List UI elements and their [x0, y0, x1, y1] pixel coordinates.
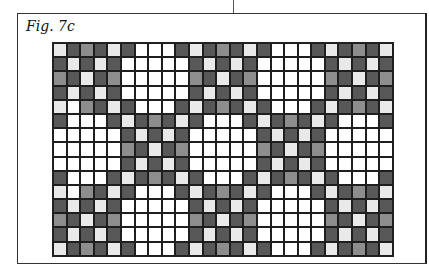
grid-cell-white: [338, 171, 352, 185]
grid-cell-mid-grey: [243, 71, 257, 85]
grid-cell-white: [284, 57, 298, 71]
grid-cell-light-grey: [311, 171, 325, 185]
grid-cell-dark-grey: [230, 43, 244, 57]
grid-cell-light-grey: [67, 227, 81, 241]
grid-cell-white: [298, 199, 312, 213]
grid-cell-white: [298, 185, 312, 199]
grid-cell-dark-grey: [148, 157, 162, 171]
grid-cell-white: [162, 199, 176, 213]
grid-cell-white: [216, 171, 230, 185]
grid-cell-dark-grey: [271, 114, 285, 128]
grid-cell-dark-grey: [53, 227, 67, 241]
grid-cell-white: [135, 227, 149, 241]
grid-cell-white: [243, 142, 257, 156]
grid-cell-white: [94, 142, 108, 156]
grid-cell-dark-grey: [203, 242, 217, 256]
grid-cell-white: [80, 142, 94, 156]
grid-cell-white: [148, 86, 162, 100]
grid-cell-white: [271, 71, 285, 85]
grid-cell-dark-grey: [216, 57, 230, 71]
grid-cell-dark-grey: [107, 86, 121, 100]
grid-cell-dark-grey: [379, 114, 393, 128]
grid-cell-light-grey: [203, 199, 217, 213]
grid-cell-light-grey: [216, 213, 230, 227]
grid-cell-white: [271, 199, 285, 213]
grid-cell-dark-grey: [366, 242, 380, 256]
grid-cell-dark-grey: [311, 128, 325, 142]
grid-cell-light-grey: [366, 57, 380, 71]
grid-cell-mid-grey: [189, 71, 203, 85]
grid-cell-mid-grey: [352, 242, 366, 256]
grid-cell-white: [352, 142, 366, 156]
grid-cell-dark-grey: [230, 185, 244, 199]
grid-cell-mid-grey: [311, 142, 325, 156]
grid-cell-white: [53, 142, 67, 156]
grid-cell-light-grey: [298, 128, 312, 142]
grid-cell-light-grey: [366, 86, 380, 100]
grid-cell-dark-grey: [366, 213, 380, 227]
grid-cell-white: [107, 128, 121, 142]
grid-cell-dark-grey: [121, 242, 135, 256]
grid-cell-white: [67, 157, 81, 171]
grid-cell-white: [230, 171, 244, 185]
grid-cell-white: [107, 157, 121, 171]
grid-cell-white: [366, 171, 380, 185]
grid-cell-white: [311, 86, 325, 100]
grid-cell-dark-grey: [189, 114, 203, 128]
grid-cell-dark-grey: [284, 128, 298, 142]
grid-cell-dark-grey: [80, 227, 94, 241]
grid-cell-white: [67, 114, 81, 128]
grid-cell-dark-grey: [257, 128, 271, 142]
grid-cell-white: [284, 100, 298, 114]
grid-cell-mid-grey: [284, 171, 298, 185]
grid-cell-dark-grey: [230, 242, 244, 256]
grid-cell-dark-grey: [175, 242, 189, 256]
grid-cell-light-grey: [203, 227, 217, 241]
grid-cell-dark-grey: [243, 114, 257, 128]
grid-cell-mid-grey: [53, 213, 67, 227]
grid-cell-mid-grey: [352, 43, 366, 57]
grid-cell-white: [338, 157, 352, 171]
grid-cell-white: [298, 227, 312, 241]
grid-cell-white: [284, 199, 298, 213]
grid-cell-mid-grey: [379, 213, 393, 227]
grid-cell-dark-grey: [80, 57, 94, 71]
top-column-divider: [233, 0, 234, 13]
grid-cell-white: [80, 114, 94, 128]
grid-cell-white: [121, 71, 135, 85]
grid-cell-light-grey: [94, 199, 108, 213]
grid-cell-white: [80, 171, 94, 185]
grid-cell-dark-grey: [325, 227, 339, 241]
grid-cell-white: [80, 128, 94, 142]
grid-cell-light-grey: [203, 86, 217, 100]
grid-cell-dark-grey: [230, 100, 244, 114]
grid-cell-dark-grey: [325, 114, 339, 128]
grid-cell-light-grey: [366, 199, 380, 213]
grid-cell-white: [203, 171, 217, 185]
grid-cell-light-grey: [338, 86, 352, 100]
grid-cell-dark-grey: [379, 171, 393, 185]
grid-cell-dark-grey: [203, 213, 217, 227]
grid-cell-dark-grey: [338, 213, 352, 227]
grid-cell-white: [162, 242, 176, 256]
grid-cell-white: [148, 213, 162, 227]
grid-cell-light-grey: [243, 100, 257, 114]
grid-cell-white: [53, 128, 67, 142]
grid-cell-dark-grey: [352, 227, 366, 241]
grid-cell-mid-grey: [175, 142, 189, 156]
grid-cell-dark-grey: [162, 142, 176, 156]
grid-cell-light-grey: [325, 242, 339, 256]
grid-cell-dark-grey: [67, 213, 81, 227]
grid-cell-white: [53, 157, 67, 171]
grid-cell-light-grey: [189, 185, 203, 199]
top-region-clipped: [0, 0, 429, 13]
grid-cell-dark-grey: [271, 142, 285, 156]
grid-cell-mid-grey: [284, 114, 298, 128]
grid-cell-mid-grey: [189, 213, 203, 227]
grid-cell-light-grey: [148, 142, 162, 156]
grid-cell-light-grey: [67, 57, 81, 71]
grid-cell-dark-grey: [107, 199, 121, 213]
grid-cell-white: [80, 157, 94, 171]
grid-cell-light-grey: [107, 100, 121, 114]
grid-cell-white: [94, 114, 108, 128]
